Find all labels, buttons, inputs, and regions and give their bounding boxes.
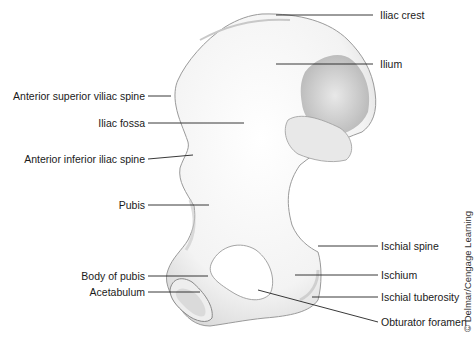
label-ischium: Ischium bbox=[381, 269, 417, 281]
label-anterior-inferior-iliac-spine: Anterior inferior iliac spine bbox=[24, 153, 145, 165]
label-ilium: Ilium bbox=[380, 58, 402, 70]
label-ischial-spine: Ischial spine bbox=[381, 240, 439, 252]
label-ischial-tuberosity: Ischial tuberosity bbox=[381, 291, 459, 303]
label-acetabulum: Acetabulum bbox=[90, 286, 145, 298]
label-pubis: Pubis bbox=[119, 199, 145, 211]
label-iliac-fossa: Iliac fossa bbox=[98, 117, 145, 129]
label-obturator-foramen: Obturator foramen bbox=[381, 316, 467, 328]
label-anterior-superior-iliac-spine: Anterior superior viliac spine bbox=[13, 90, 145, 102]
label-body-of-pubis: Body of pubis bbox=[81, 270, 145, 282]
copyright-credit: © Delmar/Cengage Learning bbox=[462, 211, 473, 332]
label-iliac-crest: Iliac crest bbox=[380, 9, 424, 21]
hip-bone-illustration bbox=[0, 0, 475, 337]
hip-bone-diagram: Iliac crest Ilium Ischial spine Ischium … bbox=[0, 0, 475, 337]
